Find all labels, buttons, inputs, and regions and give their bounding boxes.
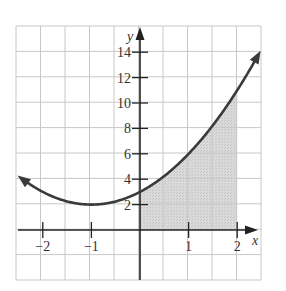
curve-arrow-right-icon <box>250 51 261 65</box>
y-tick-label: 14 <box>117 45 131 60</box>
x-tick-label: −2 <box>35 239 50 254</box>
y-tick-label: 6 <box>124 147 131 162</box>
y-tick-label: 2 <box>124 198 131 213</box>
x-tick-label: −1 <box>84 239 99 254</box>
y-tick-label: 4 <box>124 172 131 187</box>
y-tick-label: 8 <box>124 121 131 136</box>
x-axis-label: x <box>251 233 259 248</box>
x-tick-label: 2 <box>234 239 241 254</box>
curve-arrow-left-icon <box>18 175 31 187</box>
y-axis-arrow-icon <box>136 27 145 40</box>
y-tick-label: 12 <box>117 71 131 86</box>
x-tick-label: 1 <box>185 239 192 254</box>
grid <box>16 26 261 280</box>
y-tick-label: 10 <box>117 96 131 111</box>
function-graph: −2−1122468101214xy <box>0 0 286 291</box>
y-axis-label: y <box>125 29 134 44</box>
